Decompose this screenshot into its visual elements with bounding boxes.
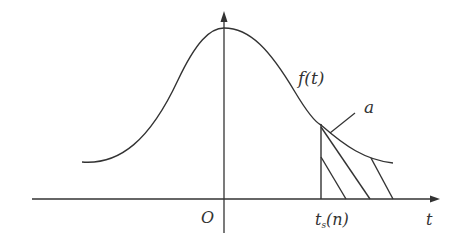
x-axis-arrow-icon [430,196,440,203]
hatched-region-a [321,127,393,199]
threshold-label: ts(n) [315,210,349,230]
diagram-canvas: f(t) a O ts(n) t [0,0,463,250]
y-axis [221,11,228,233]
x-axis-label: t [426,210,433,229]
origin-label: O [201,208,214,227]
region-label: a [364,97,374,117]
region-a-leader [330,113,355,133]
curve-f [82,28,393,163]
x-axis [32,196,440,203]
curve-label: f(t) [296,68,324,88]
y-axis-arrow-icon [221,11,228,22]
